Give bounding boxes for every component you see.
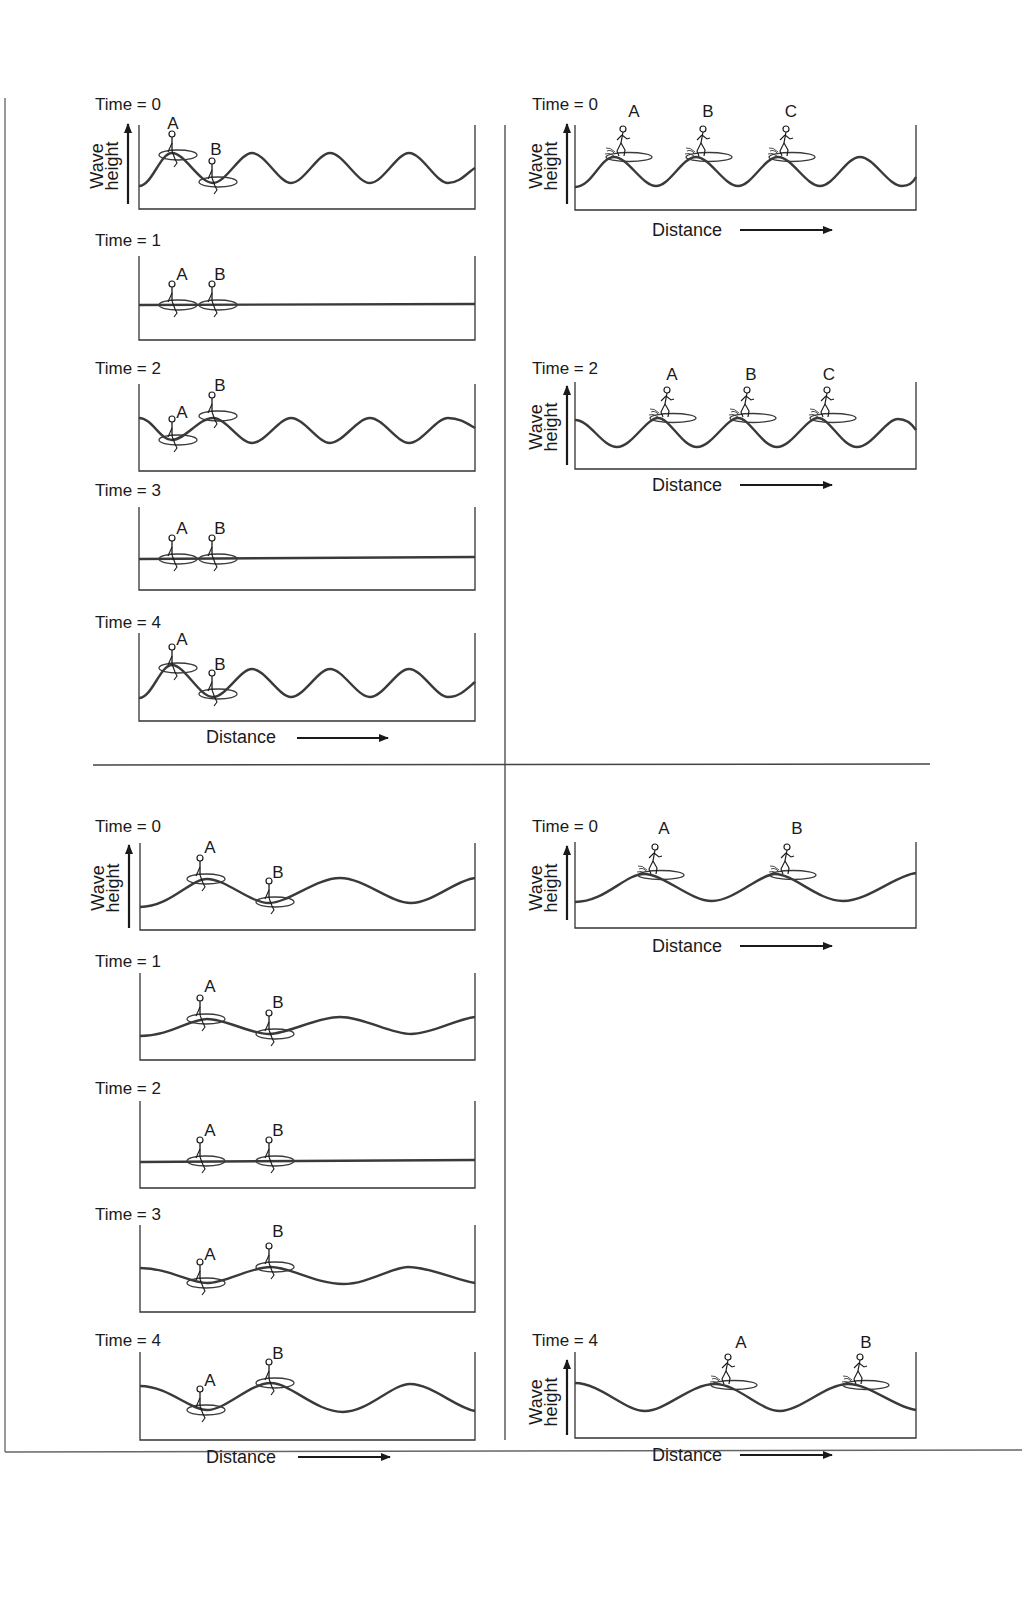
time-label: Time = 2 bbox=[95, 1079, 161, 1098]
panel-tr-time-0: Time = 0 Wave height A B C Distance bbox=[526, 95, 916, 240]
x-label-distance: Distance bbox=[206, 727, 276, 747]
floater-b bbox=[199, 392, 237, 428]
panel-tl-time-2: Time = 2 A B bbox=[95, 359, 475, 471]
wave-curve bbox=[575, 873, 916, 902]
label-a: A bbox=[658, 819, 670, 838]
label-a: A bbox=[666, 365, 678, 384]
quadrant-bottom-right: Time = 0 Wave height A B Distance Time =… bbox=[526, 817, 916, 1465]
quadrant-top-right: Time = 0 Wave height A B C Distance Time… bbox=[526, 95, 916, 495]
wave-curve bbox=[139, 418, 475, 443]
floater-b bbox=[199, 281, 237, 317]
y-label-height: height bbox=[541, 402, 561, 451]
wave-curve bbox=[140, 1267, 475, 1284]
label-b: B bbox=[214, 265, 225, 284]
floater-a bbox=[159, 644, 197, 680]
frame-bottom-border bbox=[5, 1450, 1022, 1452]
floater-b bbox=[256, 1010, 294, 1046]
label-b: B bbox=[214, 519, 225, 538]
surfer-b bbox=[685, 126, 732, 162]
panel-bl-time-3: Time = 3 A B bbox=[95, 1205, 475, 1312]
wave-curve bbox=[139, 665, 475, 698]
y-label-height: height bbox=[541, 141, 561, 190]
time-label: Time = 4 bbox=[532, 1331, 598, 1350]
label-a: A bbox=[204, 838, 216, 857]
panel-bl-time-0: Time = 0 A B bbox=[95, 817, 475, 930]
label-b: B bbox=[272, 1121, 283, 1140]
y-label-height: height bbox=[541, 863, 561, 912]
x-label-distance: Distance bbox=[652, 475, 722, 495]
time-label: Time = 1 bbox=[95, 952, 161, 971]
wave-curve bbox=[139, 557, 475, 559]
x-label-distance: Distance bbox=[652, 220, 722, 240]
quadrant-top-left: Wave height Time = 0 A B Time = 1 A B Ti… bbox=[87, 95, 475, 747]
floater-b bbox=[256, 1243, 294, 1279]
time-label: Time = 3 bbox=[95, 1205, 161, 1224]
wave-curve bbox=[139, 304, 475, 305]
label-b: B bbox=[214, 655, 225, 674]
wave-curve bbox=[575, 1383, 916, 1411]
panel-bl-time-1: Time = 1 A B bbox=[95, 952, 475, 1060]
horizontal-divider bbox=[93, 764, 930, 765]
panel-tl-time-0: Time = 0 A B bbox=[95, 95, 475, 209]
floater-a bbox=[187, 1259, 225, 1295]
floater-a bbox=[187, 1137, 225, 1173]
x-label-distance: Distance bbox=[206, 1447, 276, 1467]
time-label: Time = 0 bbox=[95, 817, 161, 836]
quadrant-bottom-left: Wave height Time = 0 A B Time = 1 A B Ti… bbox=[88, 817, 475, 1467]
wave-curve bbox=[140, 1017, 475, 1036]
time-label: Time = 1 bbox=[95, 231, 161, 250]
floater-b bbox=[256, 878, 294, 914]
label-b: B bbox=[272, 993, 283, 1012]
label-a: A bbox=[176, 403, 188, 422]
label-a: A bbox=[204, 977, 216, 996]
panel-tl-time-1: Time = 1 A B bbox=[95, 231, 475, 340]
label-c: C bbox=[785, 102, 797, 121]
x-label-distance: Distance bbox=[652, 936, 722, 956]
label-a: A bbox=[176, 630, 188, 649]
label-b: B bbox=[860, 1333, 871, 1352]
label-a: A bbox=[167, 114, 179, 133]
floater-a bbox=[159, 535, 197, 571]
time-label: Time = 0 bbox=[532, 817, 598, 836]
panel-bl-time-2: Time = 2 A B bbox=[95, 1079, 475, 1188]
floater-a bbox=[187, 1386, 225, 1422]
y-axis-label: Wave height bbox=[87, 124, 128, 204]
label-a: A bbox=[176, 519, 188, 538]
wave-diagram-figure: Wave height Time = 0 A B Time = 1 A B Ti… bbox=[0, 0, 1022, 1606]
label-b: B bbox=[272, 1222, 283, 1241]
label-b: B bbox=[214, 376, 225, 395]
floater-a bbox=[187, 855, 225, 891]
time-label: Time = 2 bbox=[532, 359, 598, 378]
time-label: Time = 0 bbox=[532, 95, 598, 114]
y-label-height: height bbox=[103, 863, 123, 912]
floater-a bbox=[159, 131, 197, 167]
y-label-height: height bbox=[102, 141, 122, 190]
panel-br-time-4: Time = 4 Wave height A B Distance bbox=[526, 1331, 916, 1465]
x-axis-label: Distance bbox=[206, 727, 388, 747]
panel-tl-time-4: Time = 4 A B bbox=[95, 613, 475, 721]
label-a: A bbox=[628, 102, 640, 121]
panel-bl-time-4: Time = 4 A B bbox=[95, 1331, 475, 1440]
label-a: A bbox=[204, 1371, 216, 1390]
label-a: A bbox=[204, 1121, 216, 1140]
label-b: B bbox=[272, 1344, 283, 1363]
label-b: B bbox=[272, 863, 283, 882]
floater-a bbox=[187, 995, 225, 1031]
label-b: B bbox=[702, 102, 713, 121]
label-b: B bbox=[791, 819, 802, 838]
floater-b bbox=[256, 1137, 294, 1173]
time-label: Time = 0 bbox=[95, 95, 161, 114]
y-label-height: height bbox=[541, 1377, 561, 1426]
floater-b bbox=[199, 670, 237, 706]
label-a: A bbox=[176, 265, 188, 284]
floater-b bbox=[199, 158, 237, 194]
wave-curve bbox=[139, 153, 475, 186]
wave-curve bbox=[140, 1160, 475, 1162]
panel-tr-time-2: Time = 2 Wave height A B C Distance bbox=[526, 359, 916, 495]
label-c: C bbox=[823, 365, 835, 384]
time-label: Time = 2 bbox=[95, 359, 161, 378]
surfer-c bbox=[768, 126, 815, 162]
panel-tl-time-3: Time = 3 A B bbox=[95, 481, 475, 590]
x-axis-label: Distance bbox=[206, 1447, 390, 1467]
floater-b bbox=[199, 535, 237, 571]
